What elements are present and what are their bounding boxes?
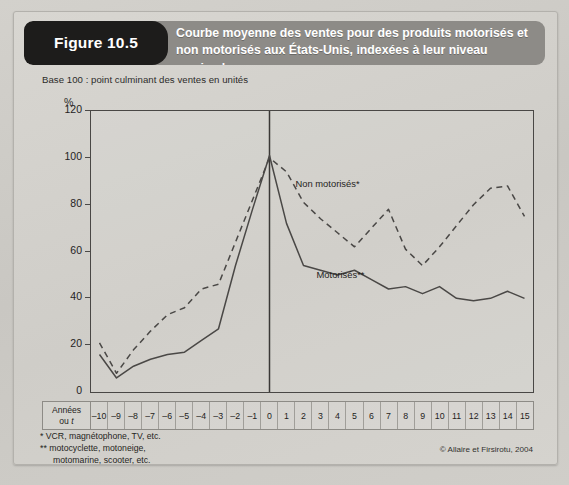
x-tick-cell-12: 12	[466, 402, 483, 429]
x-tick-cell-3: 3	[312, 402, 329, 429]
x-tick-cell--3: –3	[210, 402, 227, 429]
y-tick-label-100: 100	[56, 150, 82, 162]
x-tick-cell--8: –8	[125, 402, 142, 429]
figure-title-line-2: non motorisés aux États-Unis, indexées à…	[176, 42, 539, 65]
plot-lines	[91, 111, 533, 392]
x-tick-cell--5: –5	[176, 402, 193, 429]
x-tick-cell-9: 9	[415, 402, 432, 429]
x-tick-cell-4: 4	[329, 402, 346, 429]
x-tick-cell-7: 7	[381, 402, 398, 429]
x-tick-cell-5: 5	[346, 402, 363, 429]
x-tick-cell-2: 2	[295, 402, 312, 429]
figure-number-badge: Figure 10.5	[24, 21, 168, 65]
x-tick-cell-13: 13	[483, 402, 500, 429]
x-tick-cell--2: –2	[227, 402, 244, 429]
x-tick-cell-0: 0	[261, 402, 278, 429]
figure-panel: Figure 10.5 Courbe moyenne des ventes po…	[13, 11, 558, 465]
x-tick-cell--1: –1	[244, 402, 261, 429]
y-tick-label-60: 60	[56, 244, 82, 256]
x-tick-cell-6: 6	[364, 402, 381, 429]
y-tick-label-40: 40	[56, 290, 82, 302]
y-tick-label-80: 80	[56, 197, 82, 209]
figure-header: Figure 10.5 Courbe moyenne des ventes po…	[24, 21, 545, 65]
y-tick-label-0: 0	[56, 384, 82, 396]
x-tick-cell-8: 8	[398, 402, 415, 429]
figure-footnotes: * VCR, magnétophone, TV, etc. ** motocyc…	[40, 431, 161, 466]
x-tick-cell-10: 10	[432, 402, 449, 429]
footnote-2-line-1: ** motocyclette, motoneige,	[40, 443, 146, 453]
x-tick-cell-14: 14	[500, 402, 517, 429]
x-tick-cell-15: 15	[517, 402, 533, 429]
plot-area	[90, 110, 534, 393]
x-tick-cell-11: 11	[449, 402, 466, 429]
figure-title-line-1: Courbe moyenne des ventes pour des produ…	[176, 26, 528, 40]
x-axis-row-label-line-1: Années	[52, 405, 81, 415]
x-axis-row-label-italic-t: t	[71, 416, 73, 426]
figure-number-label: Figure 10.5	[54, 34, 138, 52]
x-axis-table: Années ou t –10–9–8–7–6–5–4–3–2–10123456…	[42, 401, 534, 430]
y-tick-label-20: 20	[56, 337, 82, 349]
series-annotation-motorises: Motorisés**	[317, 269, 365, 280]
y-tick-label-120: 120	[56, 103, 82, 115]
footnote-2-line-2: motomarine, scooter, etc.	[40, 455, 161, 467]
x-tick-cell--6: –6	[159, 402, 176, 429]
x-axis-row-label: Années ou t	[43, 402, 91, 429]
footnote-1: * VCR, magnétophone, TV, etc.	[40, 431, 161, 441]
series-line-non-motorises	[100, 158, 525, 373]
figure-credit: © Allaire et Firsirotu, 2004	[440, 445, 533, 454]
figure-title: Courbe moyenne des ventes pour des produ…	[176, 25, 539, 65]
x-tick-cell--7: –7	[142, 402, 159, 429]
x-tick-cell--9: –9	[108, 402, 125, 429]
x-tick-cell-1: 1	[278, 402, 295, 429]
x-tick-cell--10: –10	[91, 402, 108, 429]
series-annotation-non-motorises: Non motorisés*	[296, 178, 360, 189]
x-axis-row-label-line-2: ou t	[59, 416, 73, 426]
x-tick-cell--4: –4	[193, 402, 210, 429]
figure-caption: Base 100 : point culminant des ventes en…	[42, 74, 248, 85]
